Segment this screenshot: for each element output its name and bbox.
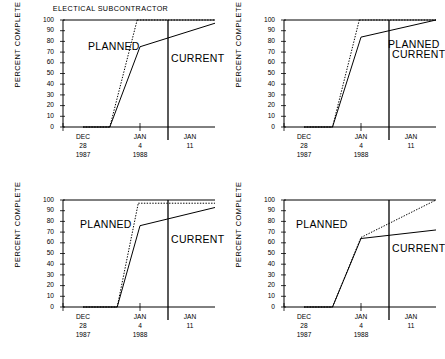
current-series-line xyxy=(333,37,362,127)
plot-area xyxy=(221,180,442,359)
x-tick-label-month: JAN xyxy=(341,133,381,141)
plot-area xyxy=(221,0,442,179)
x-tick-label-month: JAN xyxy=(341,313,381,321)
chart-panel-2: PERCENT COMPLETE1009080706050403020100PL… xyxy=(221,0,442,179)
current-series-label: CURRENT xyxy=(392,242,445,254)
current-series-line xyxy=(333,239,362,307)
current-series-line xyxy=(110,47,140,127)
x-tick-label-month: JAN xyxy=(391,313,431,321)
planned-series-line xyxy=(110,20,137,127)
chart-panel-3: PERCENT COMPLETE1009080706050403020100PL… xyxy=(0,180,221,359)
x-tick-label-year: 1987 xyxy=(284,151,324,159)
x-tick-label-month: DEC xyxy=(284,313,324,321)
x-tick-label-month: JAN xyxy=(170,313,210,321)
x-tick-label-year: 1987 xyxy=(284,331,324,339)
chart-panel-1: ELECTICAL SUBCONTRACTORPERCENT COMPLETE1… xyxy=(0,0,221,179)
x-tick-label-month: JAN xyxy=(391,133,431,141)
x-tick-label-month: JAN xyxy=(170,133,210,141)
x-tick-label-year: 1987 xyxy=(63,151,103,159)
plot-area xyxy=(0,0,221,179)
x-tick-label-day: 4 xyxy=(120,322,160,330)
x-tick-label-day: 28 xyxy=(63,142,103,150)
x-tick-label-day: 28 xyxy=(284,322,324,330)
x-tick-label-day: 4 xyxy=(341,142,381,150)
current-series-label: CURRENT xyxy=(392,48,445,60)
current-series-line xyxy=(140,23,215,47)
x-tick-label-year: 1988 xyxy=(341,151,381,159)
x-tick-label-day: 4 xyxy=(120,142,160,150)
current-series-line xyxy=(140,207,215,225)
x-tick-label-month: DEC xyxy=(284,133,324,141)
planned-series-line xyxy=(361,200,436,237)
x-tick-label-year: 1988 xyxy=(120,331,160,339)
current-series-line xyxy=(361,230,436,239)
planned-series-label: PLANNED xyxy=(296,218,348,230)
x-tick-label-month: DEC xyxy=(63,133,103,141)
x-tick-label-day: 28 xyxy=(63,322,103,330)
current-series-line xyxy=(361,20,436,37)
x-tick-label-day: 11 xyxy=(391,322,431,330)
x-tick-label-day: 4 xyxy=(341,322,381,330)
x-tick-label-day: 11 xyxy=(391,142,431,150)
planned-series-line xyxy=(333,20,360,127)
chart-panel-4: PERCENT COMPLETE1009080706050403020100PL… xyxy=(221,180,442,359)
x-tick-label-year: 1987 xyxy=(63,331,103,339)
x-tick-label-day: 11 xyxy=(170,322,210,330)
planned-series-label: PLANNED xyxy=(88,40,140,52)
x-tick-label-day: 11 xyxy=(170,142,210,150)
current-series-label: CURRENT xyxy=(171,52,224,64)
x-tick-label-month: JAN xyxy=(120,313,160,321)
plot-area xyxy=(0,180,221,359)
x-tick-label-month: DEC xyxy=(63,313,103,321)
current-series-label: CURRENT xyxy=(171,233,224,245)
x-tick-label-month: JAN xyxy=(120,133,160,141)
planned-series-label: PLANNED xyxy=(80,218,132,230)
current-series-line xyxy=(117,226,140,307)
x-tick-label-year: 1988 xyxy=(120,151,160,159)
x-tick-label-day: 28 xyxy=(284,142,324,150)
x-tick-label-year: 1988 xyxy=(341,331,381,339)
